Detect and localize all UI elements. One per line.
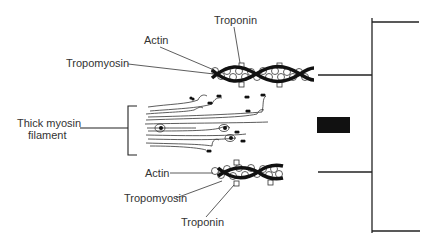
top-actin-leader <box>160 47 214 70</box>
label-bottom-tropomyosin: Tropomyosin <box>124 192 187 204</box>
upper-thin-filament <box>212 63 315 87</box>
myosin-bracket <box>80 106 137 155</box>
label-top-troponin: Troponin <box>214 14 257 26</box>
top-troponin-leader <box>234 27 240 63</box>
top-tropomyosin-leader <box>128 64 214 74</box>
thick-myosin-filament <box>145 95 268 150</box>
label-thick-myosin-filament-line1: Thick myosin <box>17 117 81 129</box>
label-top-tropomyosin: Tropomyosin <box>66 57 129 69</box>
label-thick-myosin-filament-line2: filament <box>28 129 67 141</box>
label-bottom-actin: Actin <box>145 167 169 179</box>
label-bottom-troponin: Troponin <box>181 216 224 228</box>
dark-block <box>317 117 350 133</box>
lower-thin-filament <box>212 160 284 186</box>
label-top-actin: Actin <box>144 34 168 46</box>
leader-lines <box>128 27 240 217</box>
bottom-troponin-leader <box>206 185 234 217</box>
